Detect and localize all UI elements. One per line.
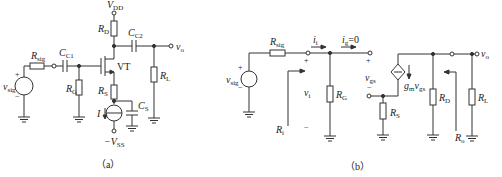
label-ri: Ri [276,125,284,137]
label-plus-vi: + [304,57,309,65]
rd-resistor-b [430,89,436,105]
label-plus-vgs: + [366,57,371,65]
rg-resistor-b [327,86,333,102]
label-rd-b: RD [439,93,450,105]
label-vsig-b: vsig [226,75,239,87]
rs-resistor-b [380,103,386,119]
rl-resistor-b [469,89,475,105]
label-rs-a: RS [98,86,108,98]
vsig-source-b [241,53,257,117]
current-source-i [103,105,122,121]
label-rd-a: RD [98,24,109,36]
rl-resistor-a [151,67,157,82]
label-vo-a: vo [176,42,184,54]
label-vdd: VDD [107,0,123,12]
cs-capacitor [126,111,138,115]
cc2-capacitor [132,40,136,52]
caption-b: （b） [345,162,370,172]
label-vi: vi [304,88,310,100]
caption-a: （a） [96,160,120,170]
label-ii: ii [313,35,318,47]
label-minus-vgs: − [367,84,372,92]
label-rg-a: RG [66,84,77,96]
label-cc2: CC2 [128,28,143,40]
label-i: I [97,109,100,119]
label-minus-b: − [238,84,243,92]
label-cc1: CC1 [59,48,74,60]
label-ig: ig=0 [342,35,359,47]
label-minus-vi: − [304,124,309,132]
label-vt: VT [117,62,130,72]
label-gmvgs: gmvgs [404,81,425,93]
rd-resistor-a [111,21,117,36]
rs-resistor-a [111,85,117,99]
label-rsig-b: Rsig [270,37,284,49]
label-ro: Ro [455,133,465,145]
label-vss: −VSS [104,137,125,149]
label-minus-a: − [15,93,20,101]
label-rs-b: RS [390,108,400,120]
mosfet-vt [101,46,114,82]
label-rl-b: RL [478,93,488,105]
label-rsig-a: Rsig [31,51,45,63]
label-vo-b: vo [481,49,489,61]
rsig-resistor-a [30,63,44,69]
label-cs: CS [138,101,149,113]
cc1-capacitor [63,60,67,72]
label-plus-b: + [238,64,243,72]
label-rl-a: RL [160,71,170,83]
label-plus-a: + [15,71,20,79]
label-rg-b: RG [336,90,347,102]
rsig-resistor-b [270,50,285,56]
label-vsig-a: vsig [3,82,16,94]
